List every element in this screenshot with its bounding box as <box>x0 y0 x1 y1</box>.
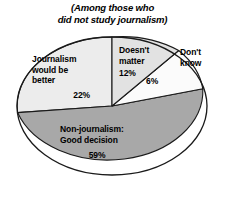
pie-chart-figure: (Among those who did not study journalis… <box>0 0 225 197</box>
pie-label-line-1: Don't <box>180 47 201 57</box>
pie-label-non-journalism-good-decision: Non-journalism: Good decision 59% <box>60 124 170 161</box>
pie-label-line-2: would be <box>32 65 68 75</box>
pie-value-non-journalism-good-decision: 59% <box>60 150 134 161</box>
pie-label-doesnt-matter: Doesn't matter 12% <box>119 45 165 79</box>
pie-label-line-3: better <box>32 75 55 85</box>
pie-label-dont-know: Don't know <box>180 47 224 68</box>
pie-label-line-1: Non-journalism: <box>60 124 124 134</box>
pie-label-line-1: Doesn't <box>119 45 149 55</box>
pie-value-dont-know: 6% <box>146 76 158 86</box>
pie-value-journalism-would-be-better: 22% <box>32 90 90 101</box>
pie-label-journalism-would-be-better: Journalism would be better 22% <box>32 54 94 100</box>
pie-label-line-2: matter <box>119 56 144 66</box>
pie-label-line-1: Journalism <box>32 54 76 64</box>
pie-label-line-2: Good decision <box>60 135 118 145</box>
pie-label-line-2: know <box>180 58 201 68</box>
